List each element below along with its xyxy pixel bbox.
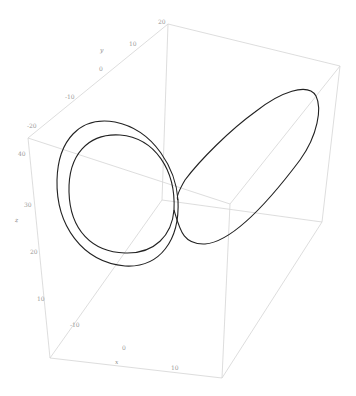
y-tick-10: 10: [129, 40, 137, 47]
attractor-curve: [57, 89, 319, 266]
x-axis: -10 0 10 x: [70, 321, 179, 371]
y-axis-label: y: [99, 46, 104, 54]
z-axis: 40 30 20 10 z: [14, 150, 45, 302]
y-tick-neg10: -10: [65, 93, 75, 100]
x-axis-label: x: [115, 358, 119, 365]
y-tick-0: 0: [99, 65, 103, 72]
z-tick-10: 10: [37, 295, 45, 302]
x-tick-neg10: -10: [70, 321, 80, 328]
x-tick-10: 10: [171, 364, 179, 371]
z-tick-20: 20: [30, 248, 38, 255]
z-tick-30: 30: [24, 201, 32, 208]
y-axis: 20 10 0 -10 -20 y: [27, 18, 166, 129]
z-tick-40: 40: [18, 150, 26, 157]
y-tick-20: 20: [158, 18, 166, 25]
z-axis-label: z: [14, 216, 19, 223]
x-tick-0: 0: [122, 344, 126, 351]
y-tick-neg20: -20: [27, 122, 37, 129]
3d-plot: 20 10 0 -10 -20 y 40 30 20 10 z -10 0 10…: [0, 0, 356, 396]
